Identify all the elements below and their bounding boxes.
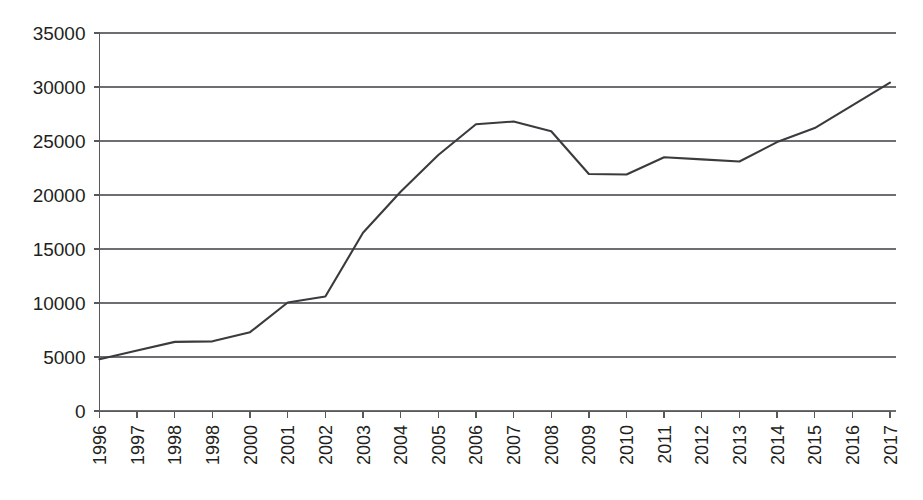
- x-tick-label: 2015: [805, 425, 825, 465]
- x-tick-label: 2003: [354, 425, 374, 465]
- y-tick-label: 10000: [33, 293, 86, 314]
- x-tick-label: 2016: [843, 425, 863, 465]
- x-tick-label: 2000: [241, 425, 261, 465]
- x-tick-label: 2011: [655, 425, 675, 464]
- x-tick-label: 2008: [542, 425, 562, 465]
- chart-background: [0, 0, 923, 500]
- line-chart: 05000100001500020000250003000035000 1996…: [0, 0, 923, 500]
- x-tick-label: 1998: [203, 425, 223, 465]
- y-tick-label: 0: [75, 401, 86, 422]
- y-tick-label: 5000: [43, 347, 85, 368]
- x-tick-label: 2007: [504, 425, 524, 465]
- x-tick-label: 1997: [128, 425, 148, 465]
- y-tick-label: 25000: [33, 131, 86, 152]
- x-tick-label: 2010: [617, 425, 637, 465]
- x-tick-label: 2017: [881, 425, 901, 465]
- x-tick-label: 2012: [692, 425, 712, 465]
- x-tick-label: 1998: [165, 425, 185, 465]
- x-tick-label: 2005: [429, 425, 449, 465]
- y-tick-label: 20000: [33, 185, 86, 206]
- x-tick-label: 2013: [730, 425, 750, 465]
- y-tick-label: 30000: [33, 77, 86, 98]
- x-tick-label: 2006: [466, 425, 486, 465]
- x-tick-label: 1996: [90, 425, 110, 465]
- chart-canvas: 05000100001500020000250003000035000 1996…: [0, 0, 923, 500]
- x-tick-label: 2009: [579, 425, 599, 465]
- x-tick-label: 2014: [768, 425, 788, 465]
- y-tick-label: 15000: [33, 239, 86, 260]
- x-tick-label: 2004: [391, 425, 411, 465]
- x-tick-label: 2001: [278, 425, 298, 465]
- x-tick-label: 2002: [316, 425, 336, 465]
- y-tick-label: 35000: [33, 23, 86, 44]
